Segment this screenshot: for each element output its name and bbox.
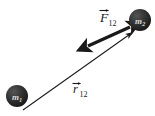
physics-force-diagram: m1 m2 F 12 r 12	[0, 0, 155, 116]
force-vector-label: F 12	[99, 9, 117, 28]
force-subscript: 12	[109, 19, 117, 28]
diagram-canvas: m1 m2 F 12 r 12	[0, 0, 155, 116]
mass-2-symbol: m	[135, 16, 142, 26]
mass-1-body: m1	[6, 85, 28, 107]
force-vector-line	[88, 27, 130, 46]
mass-2-body: m2	[129, 9, 151, 31]
separation-vector-label: r 12	[73, 82, 88, 99]
separation-vector-line	[23, 32, 133, 110]
mass-1-symbol: m	[12, 92, 19, 102]
force-symbol: F	[99, 10, 109, 25]
mass-1-subscript: 1	[19, 96, 22, 103]
separation-subscript: 12	[80, 90, 88, 99]
separation-symbol: r	[73, 82, 78, 96]
